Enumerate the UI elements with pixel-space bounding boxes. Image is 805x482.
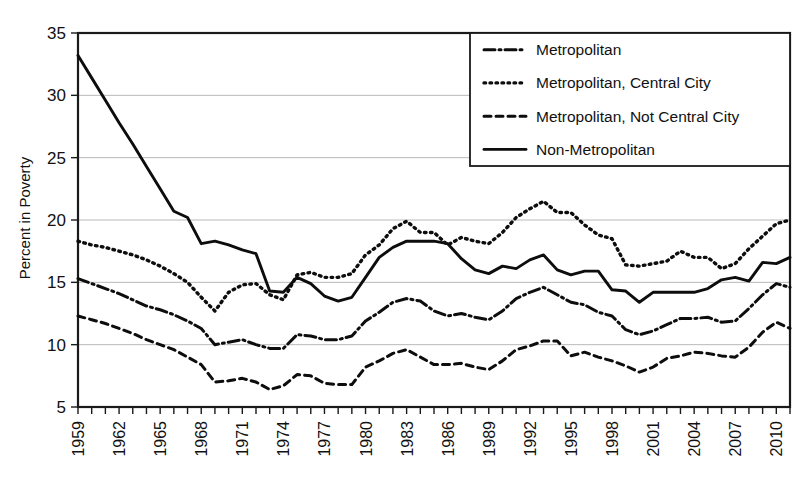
x-tick-labels-group: 1959196219651968197119741977198019831986… [70,421,785,457]
x-tick-label: 1971 [234,421,251,457]
x-tick-label: 2010 [768,421,785,457]
poverty-rate-line-chart: 5101520253035 19591962196519681971197419… [0,0,805,482]
x-tick-label: 2004 [686,421,703,457]
y-tick-label: 25 [47,149,66,168]
x-tick-label: 2007 [727,421,744,457]
y-axis-title: Percent in Poverty [16,156,33,279]
chart-legend: MetropolitanMetropolitan, Central CityMe… [470,33,790,166]
x-tick-label: 1992 [522,421,539,457]
legend-label: Metropolitan [536,41,621,58]
series-line [78,279,790,349]
series-line [78,316,790,390]
y-tick-label: 5 [57,398,66,417]
x-tick-label: 1983 [399,421,416,457]
x-tick-label: 1980 [358,421,375,457]
x-tick-label: 1998 [604,421,621,457]
x-tick-label: 1989 [481,421,498,457]
legend-label: Non-Metropolitan [536,141,655,158]
chart-canvas: 5101520253035 19591962196519681971197419… [0,0,805,482]
legend-label: Metropolitan, Not Central City [536,108,740,125]
x-tick-label: 1965 [152,421,169,457]
x-tick-label: 1968 [193,421,210,457]
y-axis-title-group: Percent in Poverty [16,156,33,279]
x-tick-label: 2001 [645,421,662,457]
x-tick-label: 1986 [440,421,457,457]
y-tick-label: 20 [47,211,66,230]
x-tick-label: 1974 [275,421,292,457]
x-tick-label: 1977 [316,421,333,457]
x-tick-label: 1995 [563,421,580,457]
y-tick-label: 35 [47,24,66,43]
y-tick-label: 15 [47,273,66,292]
x-tick-label: 1959 [70,421,87,457]
y-tick-labels-group: 5101520253035 [47,24,66,417]
legend-label: Metropolitan, Central City [536,74,711,91]
x-tick-label: 1962 [111,421,128,457]
y-tick-label: 30 [47,86,66,105]
y-tick-label: 10 [47,336,66,355]
